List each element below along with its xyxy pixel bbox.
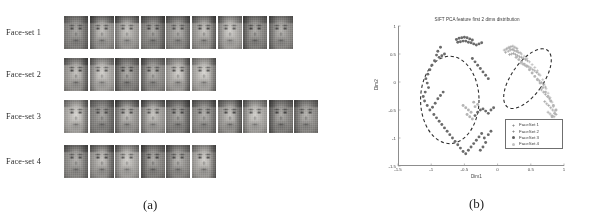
panel-b-caption: (b): [469, 196, 484, 212]
face-thumbnail: [243, 100, 267, 133]
faceset-row-1: Face-set 1: [6, 12, 293, 52]
faceset-row-3: Face-set 3: [6, 96, 318, 136]
filled-circle-icon: [508, 134, 519, 140]
face-thumbnail: [141, 58, 165, 91]
face-thumbnail: [192, 100, 216, 133]
face-thumbnail: [115, 58, 139, 91]
faceset-thumbnails-1: [64, 16, 293, 49]
face-thumbnail: [166, 145, 190, 178]
scatter-svg: -1.5-1-0.500.51-1.5-1-0.500.51: [372, 4, 582, 194]
filled-circle-icon-faded: [508, 141, 519, 147]
legend-label-faceset-2: FaceSet 2: [519, 129, 539, 134]
plus-icon: +: [508, 122, 519, 128]
face-thumbnail: [90, 145, 114, 178]
faceset-label-1: Face-set 1: [6, 28, 64, 37]
faceset-thumbnails-3: [64, 100, 318, 133]
face-thumbnail: [192, 16, 216, 49]
legend-label-faceset-3: FaceSet 3: [519, 135, 539, 140]
face-thumbnail: [141, 16, 165, 49]
y-tick-label: 0.5: [390, 52, 397, 57]
x-tick-label: 0: [496, 167, 499, 172]
face-thumbnail: [90, 16, 114, 49]
face-thumbnail: [192, 145, 216, 178]
face-thumbnail: [243, 16, 267, 49]
faceset-row-2: Face-set 2: [6, 54, 216, 94]
x-tick-label: -0.5: [461, 167, 469, 172]
face-thumbnail: [166, 100, 190, 133]
faceset-row-4: Face-set 4: [6, 141, 216, 181]
face-thumbnail: [64, 16, 88, 49]
face-thumbnail: [115, 145, 139, 178]
y-tick-label: -1: [392, 136, 396, 141]
faceset-thumbnails-2: [64, 58, 216, 91]
figure-frame: SIFT PCA feature first 2 dims distributi…: [372, 4, 582, 194]
face-thumbnail: [64, 100, 88, 133]
panel-a-caption: (a): [143, 197, 157, 213]
face-thumbnail: [192, 58, 216, 91]
legend-row-faceset-4: FaceSet 4: [508, 141, 560, 147]
face-thumbnail: [115, 100, 139, 133]
faceset-label-2: Face-set 2: [6, 70, 64, 79]
series-faceset-1: [503, 45, 558, 119]
y-tick-label: 1: [394, 24, 397, 29]
panel-a-face-sets: Face-set 1 Face-set 2 Face-set 3 Face-se…: [0, 0, 360, 224]
series-faceset-4: [462, 56, 558, 121]
x-tick-label: -1: [429, 167, 433, 172]
series-faceset-2: [505, 47, 556, 113]
y-tick-label: -0.5: [388, 108, 396, 113]
series-faceset-3: [422, 36, 495, 155]
face-thumbnail: [141, 145, 165, 178]
y-axis-title: Dim2: [374, 79, 379, 90]
legend-label-faceset-4: FaceSet 4: [519, 141, 539, 146]
chart-legend: + FaceSet 1 + FaceSet 2 FaceSet 3 FaceSe…: [505, 119, 563, 149]
faceset-thumbnails-4: [64, 145, 216, 178]
y-tick-label: 0: [394, 80, 397, 85]
filled-circle-glyph: [512, 143, 515, 146]
face-thumbnail: [166, 58, 190, 91]
face-thumbnail: [166, 16, 190, 49]
face-thumbnail: [64, 58, 88, 91]
face-thumbnail: [218, 100, 242, 133]
face-thumbnail: [269, 100, 293, 133]
faceset-label-4: Face-set 4: [6, 157, 64, 166]
x-tick-label: 0.5: [528, 167, 535, 172]
legend-label-faceset-1: FaceSet 1: [519, 122, 539, 127]
x-tick-label: 1: [563, 167, 566, 172]
face-thumbnail: [115, 16, 139, 49]
face-thumbnail: [141, 100, 165, 133]
face-thumbnail: [218, 16, 242, 49]
faceset-label-3: Face-set 3: [6, 112, 64, 121]
panel-b-scatter-figure: SIFT PCA feature first 2 dims distributi…: [372, 4, 582, 194]
face-thumbnail: [64, 145, 88, 178]
face-thumbnail: [269, 16, 293, 49]
face-thumbnail: [294, 100, 318, 133]
x-axis-title: Dim1: [471, 174, 482, 179]
y-tick-label: -1.5: [388, 164, 396, 169]
plus-icon: +: [508, 128, 519, 134]
face-thumbnail: [90, 100, 114, 133]
face-thumbnail: [90, 58, 114, 91]
